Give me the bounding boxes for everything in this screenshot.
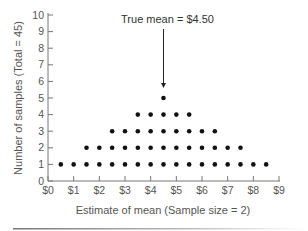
- data-dot: [148, 112, 153, 117]
- data-dot: [200, 162, 205, 167]
- x-tick-label: $8: [247, 184, 259, 196]
- data-dot: [136, 112, 141, 117]
- y-tick-label: 3: [38, 125, 44, 137]
- y-tick-label: 4: [38, 108, 44, 120]
- data-dot: [161, 112, 166, 117]
- x-tick-label: $7: [222, 184, 234, 196]
- data-dot: [136, 129, 141, 134]
- y-axis: 012345678910: [32, 9, 53, 187]
- y-tick-label: 7: [38, 58, 44, 70]
- data-dot: [97, 162, 102, 167]
- data-dot: [59, 162, 64, 167]
- y-axis-title: Number of samples (Total = 45): [12, 21, 24, 175]
- x-tick-label: $5: [170, 184, 182, 196]
- arrowhead-icon: [161, 83, 166, 88]
- data-dot: [187, 129, 192, 134]
- data-dot: [136, 146, 141, 151]
- data-dot: [200, 146, 205, 151]
- y-tick-label: 2: [38, 141, 44, 153]
- dot-plot-chart: 012345678910 $0$1$2$3$4$5$6$7$8$9 True m…: [0, 0, 308, 231]
- data-dot: [174, 129, 179, 134]
- data-dot: [84, 146, 89, 151]
- data-dot: [187, 112, 192, 117]
- data-dot: [251, 162, 256, 167]
- x-tick-label: $3: [119, 184, 131, 196]
- x-tick-label: $2: [93, 184, 105, 196]
- data-dot: [238, 162, 243, 167]
- data-dot: [71, 162, 76, 167]
- data-dot: [161, 96, 166, 101]
- data-dot: [213, 129, 218, 134]
- y-tick-label: 9: [38, 25, 44, 37]
- true-mean-annotation: True mean = $4.50: [121, 13, 214, 88]
- y-tick-label: 10: [32, 9, 44, 21]
- data-dot: [148, 162, 153, 167]
- data-dot: [225, 162, 230, 167]
- data-dot: [110, 146, 115, 151]
- data-dot: [123, 146, 128, 151]
- data-dot: [200, 129, 205, 134]
- data-dot: [174, 146, 179, 151]
- y-tick-label: 8: [38, 42, 44, 54]
- y-tick-label: 5: [38, 92, 44, 104]
- x-tick-label: $9: [273, 184, 285, 196]
- annotation-label: True mean = $4.50: [121, 13, 214, 25]
- x-tick-label: $1: [68, 184, 80, 196]
- data-dot: [264, 162, 269, 167]
- x-tick-label: $4: [145, 184, 157, 196]
- data-dots: [59, 96, 269, 167]
- data-dot: [174, 112, 179, 117]
- y-tick-label: 6: [38, 75, 44, 87]
- data-dot: [161, 146, 166, 151]
- y-tick-label: 1: [38, 158, 44, 170]
- data-dot: [123, 162, 128, 167]
- data-dot: [238, 146, 243, 151]
- data-dot: [84, 162, 89, 167]
- data-dot: [161, 129, 166, 134]
- data-dot: [148, 146, 153, 151]
- data-dot: [97, 146, 102, 151]
- bottom-separator-rule: [13, 228, 303, 230]
- data-dot: [174, 162, 179, 167]
- data-dot: [213, 162, 218, 167]
- x-tick-label: $0: [42, 184, 54, 196]
- data-dot: [225, 146, 230, 151]
- x-axis-title: Estimate of mean (Sample size = 2): [76, 204, 251, 216]
- x-axis: $0$1$2$3$4$5$6$7$8$9: [42, 176, 285, 196]
- data-dot: [187, 162, 192, 167]
- data-dot: [110, 162, 115, 167]
- data-dot: [148, 129, 153, 134]
- data-dot: [123, 129, 128, 134]
- data-dot: [136, 162, 141, 167]
- x-tick-label: $6: [196, 184, 208, 196]
- data-dot: [213, 146, 218, 151]
- data-dot: [187, 146, 192, 151]
- data-dot: [161, 162, 166, 167]
- data-dot: [110, 129, 115, 134]
